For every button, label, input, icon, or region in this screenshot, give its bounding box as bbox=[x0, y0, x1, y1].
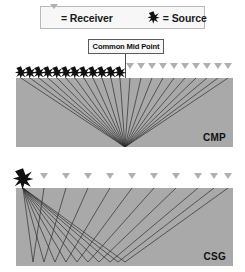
cmp-raypath-diagram bbox=[16, 78, 233, 147]
cmp-panel-tag: CMP bbox=[203, 132, 226, 143]
raypath bbox=[125, 78, 163, 147]
common-mid-point-label: Common Mid Point bbox=[93, 42, 160, 51]
raypath bbox=[88, 188, 154, 262]
source-star-icon bbox=[147, 11, 160, 24]
csg-panel-tag: CSG bbox=[203, 251, 226, 262]
raypath bbox=[39, 78, 125, 147]
raypath bbox=[44, 188, 66, 262]
common-mid-point-callout: Common Mid Point bbox=[88, 39, 164, 54]
raypath bbox=[99, 188, 176, 262]
raypath bbox=[125, 78, 196, 147]
raypath bbox=[23, 188, 44, 262]
seismic-geometry-figure: = Receiver = Source Common Mid Point CMP… bbox=[0, 0, 245, 272]
raypath bbox=[66, 78, 125, 147]
raypath bbox=[57, 78, 125, 147]
cmp-panel: CMP bbox=[16, 78, 233, 147]
csg-raypath-diagram bbox=[16, 188, 233, 266]
csg-panel: CSG bbox=[16, 188, 233, 266]
raypath bbox=[125, 78, 207, 147]
raypath bbox=[23, 188, 88, 262]
raypath bbox=[120, 78, 125, 147]
raypath bbox=[125, 78, 174, 147]
legend-label-source: = Source bbox=[163, 12, 207, 24]
raypath bbox=[110, 188, 198, 262]
source-star-icon bbox=[12, 168, 34, 190]
raypath bbox=[118, 188, 214, 262]
legend-box: = Receiver = Source bbox=[40, 6, 205, 29]
raypath bbox=[30, 78, 125, 147]
raypath bbox=[23, 188, 66, 262]
legend-entry-source: = Source bbox=[147, 11, 207, 24]
legend-label-receiver: = Receiver bbox=[61, 12, 113, 24]
raypath bbox=[21, 78, 125, 147]
raypath bbox=[84, 78, 125, 147]
source-star-icon bbox=[114, 66, 127, 79]
legend-entry-receiver: = Receiver bbox=[50, 12, 113, 24]
raypath bbox=[23, 188, 110, 262]
raypath bbox=[77, 188, 132, 262]
